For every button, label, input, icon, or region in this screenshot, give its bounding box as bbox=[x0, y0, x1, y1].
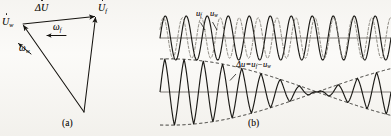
label-u-w-sub: w bbox=[9, 21, 13, 28]
label-omega-w-sub: w bbox=[26, 48, 30, 54]
label-delta-u: ΔU bbox=[35, 3, 48, 13]
waveforms-svg bbox=[160, 0, 391, 136]
label-delta-u-formula: Δu=uf−uw bbox=[236, 60, 271, 70]
label-wave-u-w-sub: w bbox=[214, 12, 218, 18]
caption-panel-a: (a) bbox=[62, 118, 73, 128]
caption-panel-b: (b) bbox=[248, 118, 259, 128]
figure-root: ΔU Uf Uw ωf ωw (a) bbox=[0, 0, 391, 136]
label-delta-u-formula-b: −u bbox=[257, 59, 267, 69]
label-u-f: Uf bbox=[98, 3, 107, 14]
label-omega-w-base: ω bbox=[19, 43, 26, 53]
label-delta-u-formula-sub2: w bbox=[267, 63, 271, 69]
envelope-upper bbox=[160, 59, 391, 92]
panel-a-phasor-diagram: ΔU Uf Uw ωf ωw (a) bbox=[0, 0, 160, 136]
label-omega-f-sub: f bbox=[60, 27, 62, 33]
label-delta-u-text: ΔU bbox=[35, 2, 48, 13]
vector-u-w bbox=[24, 26, 85, 113]
label-u-f-sub: f bbox=[105, 7, 107, 14]
label-wave-u-f-sub: f bbox=[200, 12, 201, 18]
panel-b-waveforms: uf uw Δu=uf−uw (b) bbox=[160, 0, 391, 136]
label-omega-w: ωw bbox=[19, 44, 30, 55]
label-u-w: Uw bbox=[2, 17, 13, 28]
phasor-triangle-svg bbox=[0, 0, 160, 136]
vector-u-f bbox=[84, 18, 96, 113]
label-u-w-base: U bbox=[2, 16, 9, 27]
label-omega-f: ωf bbox=[53, 23, 61, 34]
leader-delta-u bbox=[230, 74, 236, 81]
label-omega-f-base: ω bbox=[53, 22, 60, 32]
label-u-f-base: U bbox=[98, 2, 105, 13]
label-delta-u-formula-a: Δu=u bbox=[236, 59, 256, 69]
label-wave-u-w: uw bbox=[210, 9, 218, 19]
leader-u-w bbox=[213, 22, 218, 30]
label-wave-u-f: uf bbox=[196, 9, 202, 19]
